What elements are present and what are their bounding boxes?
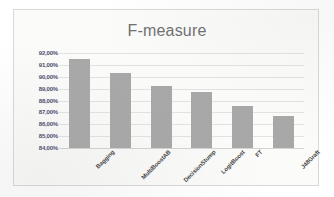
x-axis: BaggingMultiBoostABDecisionStumpLogitBoo… xyxy=(59,149,304,189)
gridline xyxy=(59,101,304,102)
chart-frame: F-measure 92,00%91,00%90,00%89,00%88,00%… xyxy=(13,9,319,186)
x-axis-tick-label: Bagging xyxy=(95,149,116,170)
bar xyxy=(69,59,90,148)
gridline xyxy=(59,136,304,137)
bar xyxy=(110,73,131,148)
bar xyxy=(273,116,294,148)
y-axis-tick-label: 91,00% xyxy=(39,62,58,68)
gridline xyxy=(59,124,304,125)
gridline xyxy=(59,77,304,78)
x-axis-tick-label: DecisionStump xyxy=(182,149,216,183)
x-axis-tick-label: FT xyxy=(254,149,263,158)
y-axis-tick-label: 85,00% xyxy=(39,133,58,139)
y-axis-tick-label: 88,00% xyxy=(39,98,58,104)
gridline xyxy=(59,112,304,113)
bar xyxy=(191,92,212,148)
gridline xyxy=(59,53,304,54)
x-axis-tick-label: J48Graft xyxy=(299,149,320,170)
plot-area xyxy=(59,53,304,148)
gridline xyxy=(59,65,304,66)
y-axis: 92,00%91,00%90,00%89,00%88,00%87,00%86,0… xyxy=(28,53,58,148)
y-axis-tick-label: 90,00% xyxy=(39,74,58,80)
bar xyxy=(151,86,172,148)
y-axis-tick-label: 87,00% xyxy=(39,109,58,115)
x-axis-tick-label: LogitBoost xyxy=(220,149,246,175)
y-axis-tick-label: 92,00% xyxy=(39,50,58,56)
x-axis-tick-label: MultiBoostAB xyxy=(141,149,172,180)
y-axis-tick-label: 86,00% xyxy=(39,121,58,127)
y-axis-tick-label: 84,00% xyxy=(39,145,58,151)
chart-title: F-measure xyxy=(14,22,320,40)
bar xyxy=(232,106,253,148)
y-axis-tick-label: 89,00% xyxy=(39,86,58,92)
gridline xyxy=(59,89,304,90)
